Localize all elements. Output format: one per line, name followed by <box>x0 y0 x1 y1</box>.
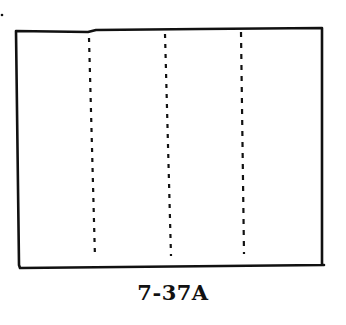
fold-line-3 <box>241 32 244 254</box>
paper-rectangle <box>16 28 324 268</box>
diagram-canvas <box>0 0 346 325</box>
fold-line-1 <box>89 38 95 258</box>
stray-dot <box>1 14 4 17</box>
figure-caption: 7-37A <box>0 280 346 305</box>
fold-line-2 <box>165 34 171 256</box>
